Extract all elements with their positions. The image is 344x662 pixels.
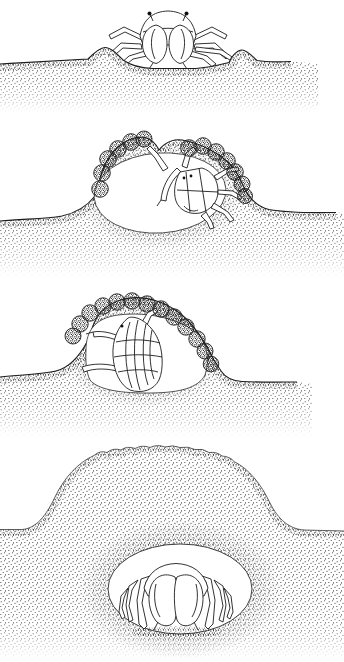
crab-eye [148,12,152,16]
panel-stage-3 [0,293,312,436]
panel-stage-1 [0,11,318,114]
sand-pellet [109,294,125,310]
illustration-page [0,0,344,662]
crab-leg [109,27,144,41]
sand-pellet [92,181,109,198]
crab-leg [192,27,227,41]
sand-pellet [124,293,140,309]
crab-eye [190,175,193,178]
sand-pellet [203,356,219,372]
crab-on-surface [107,11,235,69]
sand-pellet [136,131,152,147]
panel-stage-2 [0,131,344,276]
panel-stage-4 [0,446,344,662]
sand-pellet [238,189,253,204]
crab-eye [185,12,189,16]
crab-eye [183,177,186,180]
illustration-canvas [0,0,344,662]
crab-eye [121,325,124,328]
